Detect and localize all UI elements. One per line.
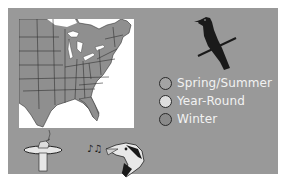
legend-item-year-round: Year-Round — [159, 92, 272, 110]
birdbath-icon — [20, 130, 66, 174]
legend-label: Spring/Summer — [177, 76, 272, 90]
legend: Spring/Summer Year-Round Winter — [159, 74, 272, 128]
range-map — [19, 19, 134, 128]
spring-summer-swatch-icon — [159, 77, 172, 90]
year-round-swatch-icon — [159, 95, 172, 108]
legend-item-spring-summer: Spring/Summer — [159, 74, 272, 92]
legend-label: Winter — [177, 112, 217, 126]
perched-bird-icon — [186, 12, 248, 74]
music-notes-icon: ♪♫ — [87, 143, 102, 154]
winter-swatch-icon — [159, 113, 172, 126]
legend-item-winter: Winter — [159, 110, 272, 128]
range-map-panel: Spring/Summer Year-Round Winter ♪♫ — [8, 8, 278, 174]
woodpecker-head-icon — [104, 135, 148, 179]
legend-label: Year-Round — [177, 94, 245, 108]
us-map-graphic — [19, 19, 134, 128]
